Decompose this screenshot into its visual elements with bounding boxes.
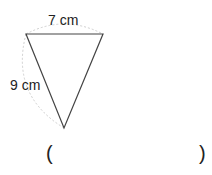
- left-side-label: 9 cm: [10, 77, 40, 93]
- top-side-label: 7 cm: [48, 12, 78, 28]
- answer-close-paren: ): [199, 142, 206, 165]
- answer-open-paren: (: [46, 142, 53, 165]
- answer-blank[interactable]: [60, 144, 196, 166]
